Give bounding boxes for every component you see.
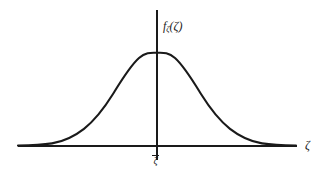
mean-tick-label: ζ [152, 155, 159, 166]
y-axis-label: fζ(ζ) [163, 20, 182, 34]
x-axis-label: ζ [305, 139, 310, 151]
distribution-figure: fζ(ζ) ζ ζ [0, 0, 325, 182]
mean-tick-label-glyph: ζ [152, 156, 159, 166]
y-axis-label-argument: (ζ) [170, 19, 183, 33]
